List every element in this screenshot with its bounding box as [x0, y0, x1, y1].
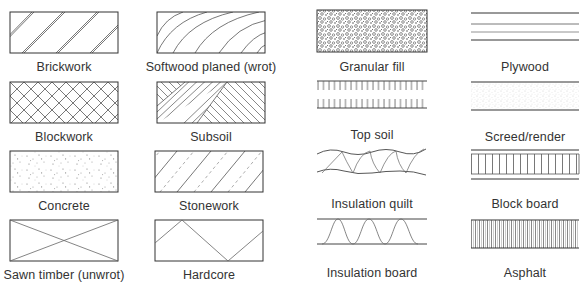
screed-render-icon [440, 70, 584, 130]
legend-item-subsoil: Subsoil [145, 70, 295, 145]
label-insulation-board: Insulation board [327, 266, 418, 280]
label-hardcore: Hardcore [183, 268, 235, 282]
legend-item-insulation-quilt: Insulation quilt [300, 139, 440, 214]
legend-item-brickwork: Brickwork [0, 0, 140, 75]
legend-item-softwood-planed: Softwood planed (wrot) [145, 0, 295, 75]
legend-item-top-soil: Top soil [300, 70, 440, 145]
legend-item-insulation-board: Insulation board [300, 208, 440, 287]
granular-fill-icon [300, 0, 440, 60]
plywood-lines-icon [440, 0, 584, 60]
label-asphalt: Asphalt [504, 266, 546, 280]
legend-item-stonework: Stonework [145, 139, 295, 214]
label-sawn-timber: Sawn timber (unwrot) [4, 268, 125, 282]
legend-item-block-board: Block board [440, 139, 584, 214]
stonework-hatch-icon [145, 139, 295, 199]
legend-item-plywood: Plywood [440, 0, 584, 75]
legend-item-hardcore: Hardcore [145, 208, 295, 287]
block-board-icon [440, 139, 584, 199]
hardcore-zigzag-icon [145, 208, 295, 268]
legend-item-screed-render: Screed/render [440, 70, 584, 145]
insulation-quilt-icon [300, 139, 440, 199]
legend-item-sawn-timber: Sawn timber (unwrot) [0, 208, 140, 287]
legend-item-asphalt: Asphalt [440, 208, 584, 287]
legend-item-concrete: Concrete [0, 139, 140, 214]
subsoil-hatch-icon [145, 70, 295, 130]
softwood-grain-icon [145, 0, 295, 60]
top-soil-icon [300, 70, 440, 130]
concrete-stipple-icon [0, 139, 140, 199]
insulation-board-icon [300, 208, 440, 268]
brickwork-hatch-icon [0, 0, 140, 60]
blockwork-crosshatch-icon [0, 70, 140, 130]
legend-item-blockwork: Blockwork [0, 70, 140, 145]
sawn-timber-cross-icon [0, 208, 140, 268]
asphalt-icon [440, 208, 584, 268]
legend-item-granular-fill: Granular fill [300, 0, 440, 75]
